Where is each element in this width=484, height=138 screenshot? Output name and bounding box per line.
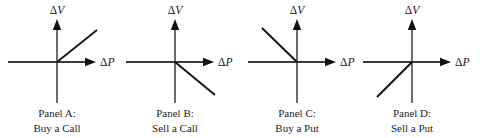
panel-a-payoff-line	[57, 30, 97, 62]
panel-b-payoff-line	[175, 62, 215, 95]
panel-c-caption-line2: Buy a Put	[275, 122, 318, 134]
panel-b-x-axis-label: ΔP	[218, 56, 232, 68]
panel-b-x-arrowhead	[203, 58, 214, 66]
panel-a-x-arrowhead	[85, 58, 96, 66]
panel-d-caption-line2: Sell a Put	[391, 122, 433, 134]
panel-d-x-arrowhead	[440, 58, 451, 66]
panel-a-y-axis-label: ΔV	[50, 4, 66, 16]
panel-c-x-axis-label: ΔP	[340, 56, 354, 68]
option-payoff-figure: ΔV ΔP Panel A: Buy a Call ΔV ΔP Panel B:…	[0, 0, 484, 138]
panel-a-caption-line2: Buy a Call	[33, 122, 80, 134]
panel-c: ΔV ΔP Panel C: Buy a Put	[248, 4, 354, 134]
panel-c-caption-line1: Panel C:	[278, 107, 316, 119]
panel-b-y-arrowhead	[171, 19, 179, 30]
panel-c-y-arrowhead	[293, 19, 301, 30]
panel-d-x-axis-label: ΔP	[455, 56, 469, 68]
panel-b: ΔV ΔP Panel B: Sell a Call	[126, 4, 232, 134]
panel-d: ΔV ΔP Panel D: Sell a Put	[363, 4, 469, 134]
panel-c-y-axis-label: ΔV	[290, 4, 306, 16]
panel-d-caption-line1: Panel D:	[393, 107, 431, 119]
panel-c-x-arrowhead	[325, 58, 336, 66]
panel-a: ΔV ΔP Panel A: Buy a Call	[8, 4, 114, 134]
panel-a-x-axis-label: ΔP	[100, 56, 114, 68]
panel-b-caption-line2: Sell a Call	[152, 122, 198, 134]
panel-a-caption-line1: Panel A:	[38, 107, 76, 119]
panel-a-y-arrowhead	[53, 19, 61, 30]
panel-b-y-axis-label: ΔV	[168, 4, 184, 16]
panels-canvas: ΔV ΔP Panel A: Buy a Call ΔV ΔP Panel B:…	[0, 0, 484, 138]
panel-c-payoff-line	[262, 28, 297, 62]
panel-d-payoff-line	[377, 62, 412, 97]
panel-d-y-arrowhead	[408, 19, 416, 30]
panel-d-y-axis-label: ΔV	[405, 4, 421, 16]
panel-b-caption-line1: Panel B:	[156, 107, 194, 119]
